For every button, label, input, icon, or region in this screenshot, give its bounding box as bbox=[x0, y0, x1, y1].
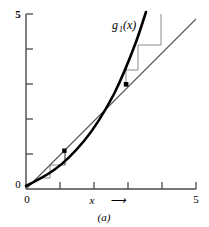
cobweb-plot-svg: 5 0 0 5 g 1 (x) x ⟶ (a) bbox=[0, 0, 209, 227]
figure-caption: (a) bbox=[98, 211, 111, 224]
fixed-point-iteration-figure: 5 0 0 5 g 1 (x) x ⟶ (a) bbox=[0, 0, 209, 227]
y-axis-max-label: 5 bbox=[15, 8, 21, 20]
y-axis-origin-label: 0 bbox=[15, 178, 21, 190]
x-axis-variable-name: x bbox=[89, 194, 95, 206]
x-axis-max-label: 5 bbox=[193, 193, 199, 205]
x-axis-origin-label: 0 bbox=[24, 193, 30, 205]
curve-label-g1: g 1 (x) bbox=[112, 18, 136, 34]
x-axis-direction-arrow: ⟶ bbox=[110, 194, 127, 206]
curve-label-argument: (x) bbox=[123, 18, 136, 32]
iteration-marker-upper bbox=[124, 82, 129, 87]
curve-label-base: g bbox=[112, 18, 118, 32]
iteration-marker-lower bbox=[62, 149, 66, 153]
